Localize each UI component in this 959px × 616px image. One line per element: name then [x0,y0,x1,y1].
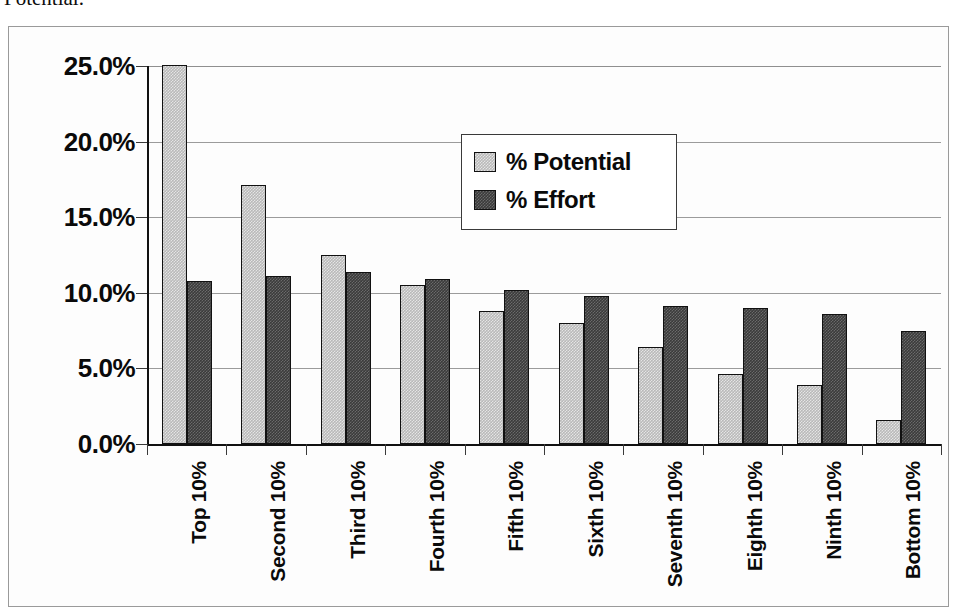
x-tick-mark [623,444,624,455]
y-tick-mark [136,142,147,143]
y-tick-mark [136,293,147,294]
bar-effort [663,306,688,444]
x-tick-mark [306,444,307,455]
bar-potential [241,185,266,444]
legend-label: % Potential [506,150,631,174]
x-axis-tick-label: Third 10% [346,461,370,559]
legend-entry: % Effort [474,181,676,219]
x-axis-label-slot: Ninth 10% [784,457,860,607]
bar-potential [797,385,822,444]
bar-group-2 [241,66,291,444]
x-axis-tick-label: Bottom 10% [901,461,925,579]
x-axis-label-slot: Top 10% [149,457,225,607]
y-tick-mark [136,217,147,218]
x-axis-tick-label: Fourth 10% [425,461,449,572]
x-axis-tick-label: Second 10% [266,461,290,582]
x-tick-mark [941,444,942,455]
legend-entry: % Potential [474,143,676,181]
bar-effort [346,272,371,444]
x-axis-label-slot: Fourth 10% [387,457,463,607]
bar-effort [743,308,768,444]
bar-group-1 [162,66,212,444]
x-axis-label-slot: Sixth 10% [546,457,622,607]
x-axis-tick-label: Fifth 10% [504,461,528,552]
x-tick-mark [782,444,783,455]
y-axis-labels: 0.0%5.0%10.0%15.0%20.0%25.0% [9,66,135,444]
bar-potential [162,65,187,445]
x-axis-label-slot: Bottom 10% [863,457,939,607]
legend-swatch-effort [474,190,496,210]
bar-group-9 [797,66,847,444]
bar-effort [187,281,212,444]
x-axis-tick-label: Seventh 10% [663,461,687,587]
y-tick-mark [136,368,147,369]
bar-group-4 [400,66,450,444]
x-tick-mark [703,444,704,455]
bar-potential [479,311,504,444]
y-axis-tick-label: 25.0% [15,51,135,82]
x-axis-label-slot: Seventh 10% [625,457,701,607]
bar-effort [901,331,926,444]
bar-effort [425,279,450,444]
caption-strip: Potential. [0,0,959,24]
bar-effort [822,314,847,444]
caption-text: Potential. [4,0,84,11]
x-axis-label-slot: Second 10% [228,457,304,607]
chart-frame: 0.0%5.0%10.0%15.0%20.0%25.0% Top 10%Seco… [8,26,949,607]
bar-effort [266,276,291,444]
x-axis-label-slot: Eighth 10% [705,457,781,607]
bar-group-10 [876,66,926,444]
x-axis-ticks [147,444,941,456]
y-tick-mark [136,444,147,445]
chart-legend: % Potential% Effort [461,134,677,230]
y-axis-tick-label: 15.0% [15,202,135,233]
x-tick-mark [385,444,386,455]
y-axis-tick-label: 20.0% [15,126,135,157]
bar-group-7 [638,66,688,444]
y-axis-tick-label: 0.0% [15,429,135,460]
x-tick-mark [226,444,227,455]
x-axis-label-slot: Fifth 10% [466,457,542,607]
bar-potential [400,285,425,444]
x-axis-tick-label: Top 10% [187,461,211,544]
bar-effort [504,290,529,444]
x-tick-mark [862,444,863,455]
bar-group-3 [321,66,371,444]
y-axis-line [147,66,149,444]
plot-area [147,66,941,444]
x-axis-tick-label: Sixth 10% [584,461,608,558]
x-axis-labels: Top 10%Second 10%Third 10%Fourth 10%Fift… [147,457,941,607]
bar-potential [559,323,584,444]
bar-group-8 [718,66,768,444]
bar-potential [876,420,901,444]
legend-label: % Effort [506,188,595,212]
y-axis-tick-label: 5.0% [15,353,135,384]
x-axis-tick-label: Ninth 10% [822,461,846,560]
y-axis-tick-label: 10.0% [15,277,135,308]
legend-swatch-potential [474,152,496,172]
bar-potential [321,255,346,444]
x-axis-label-slot: Third 10% [308,457,384,607]
x-axis-tick-label: Eighth 10% [743,461,767,571]
bar-potential [718,374,743,444]
x-tick-mark [465,444,466,455]
y-tick-mark [136,66,147,67]
x-tick-mark [544,444,545,455]
x-tick-mark [147,444,148,455]
bar-group-6 [559,66,609,444]
bar-group-5 [479,66,529,444]
bar-effort [584,296,609,444]
bar-potential [638,347,663,444]
